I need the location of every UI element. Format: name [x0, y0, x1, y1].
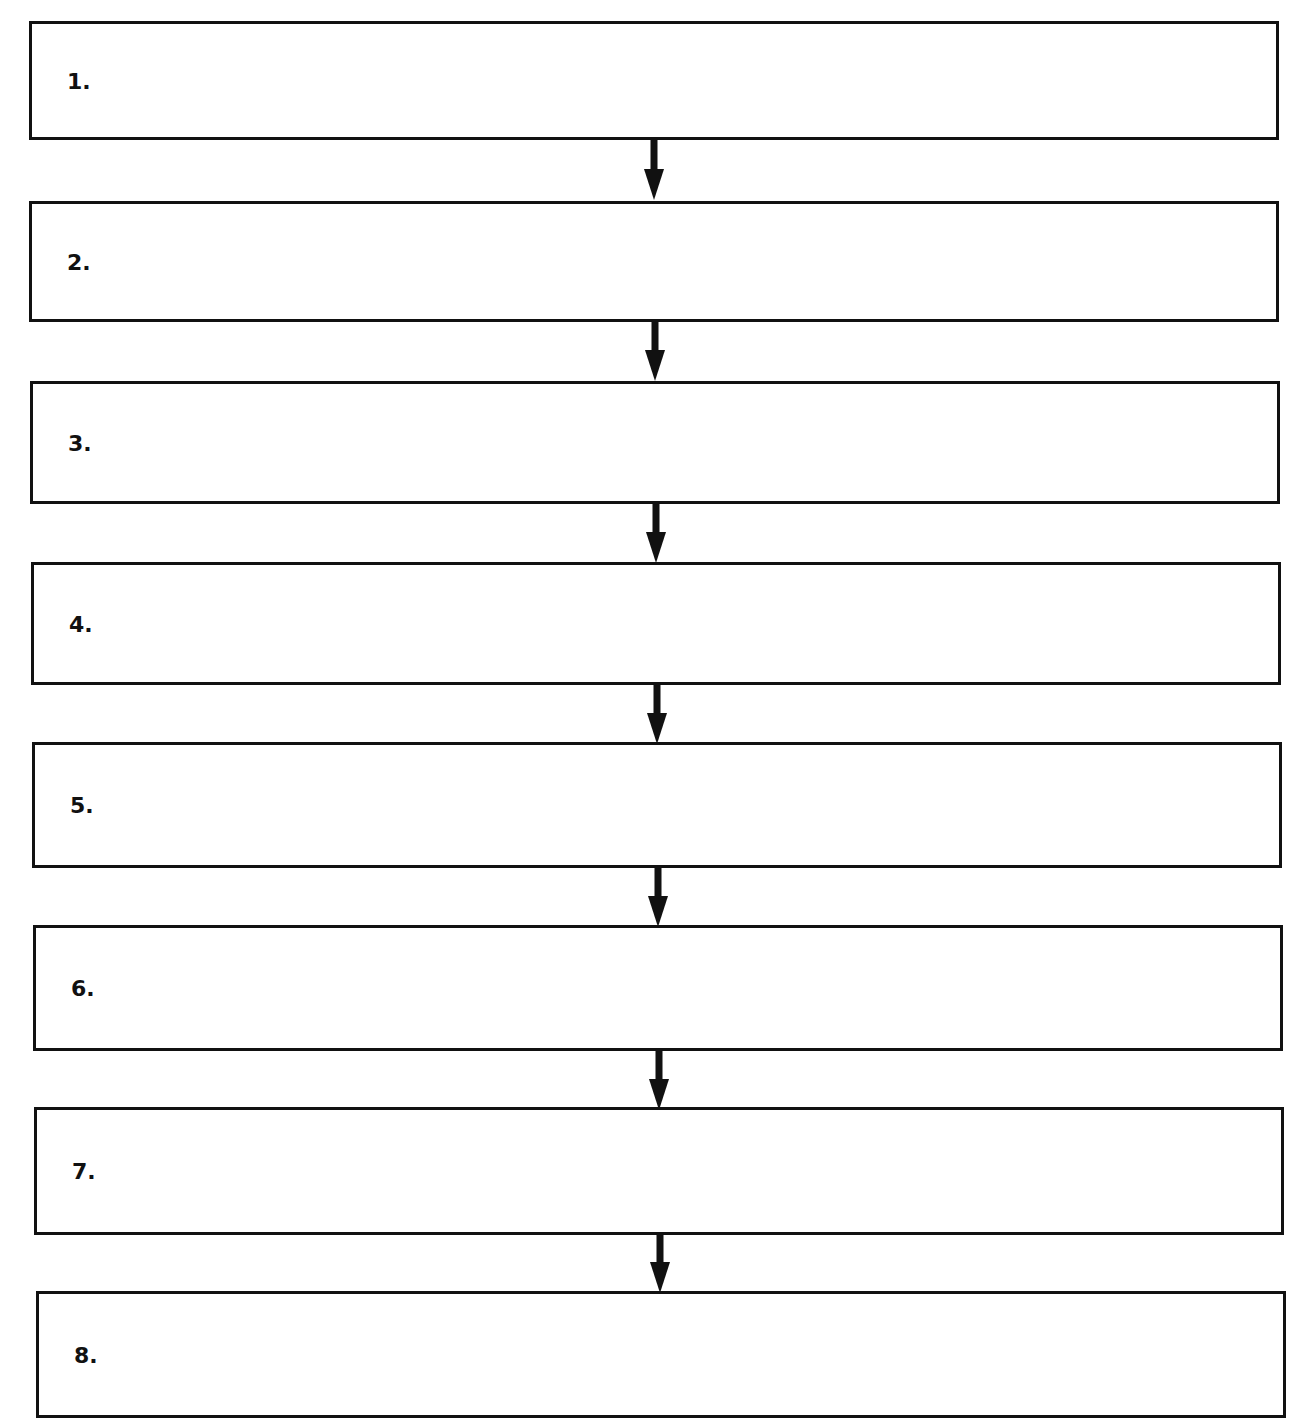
step-label-2: 2.: [67, 249, 91, 274]
down-arrow-icon: [647, 1049, 671, 1111]
down-arrow-icon: [644, 502, 668, 564]
down-arrow-icon: [643, 320, 667, 382]
step-box-1: 1.: [29, 21, 1279, 140]
step-box-7: 7.: [34, 1107, 1284, 1235]
step-label-3: 3.: [68, 430, 92, 455]
step-box-5: 5.: [32, 742, 1282, 868]
step-box-8: 8.: [36, 1291, 1286, 1418]
step-label-6: 6.: [71, 976, 95, 1001]
step-label-1: 1.: [67, 68, 91, 93]
step-label-4: 4.: [69, 611, 93, 636]
step-label-8: 8.: [74, 1342, 98, 1367]
step-label-7: 7.: [72, 1159, 96, 1184]
step-box-4: 4.: [31, 562, 1281, 685]
down-arrow-icon: [645, 683, 669, 745]
down-arrow-icon: [648, 1232, 672, 1294]
step-box-3: 3.: [30, 381, 1280, 504]
down-arrow-icon: [646, 866, 670, 928]
step-box-6: 6.: [33, 925, 1283, 1051]
down-arrow-icon: [642, 139, 666, 201]
step-label-5: 5.: [70, 793, 94, 818]
step-box-2: 2.: [29, 201, 1279, 322]
